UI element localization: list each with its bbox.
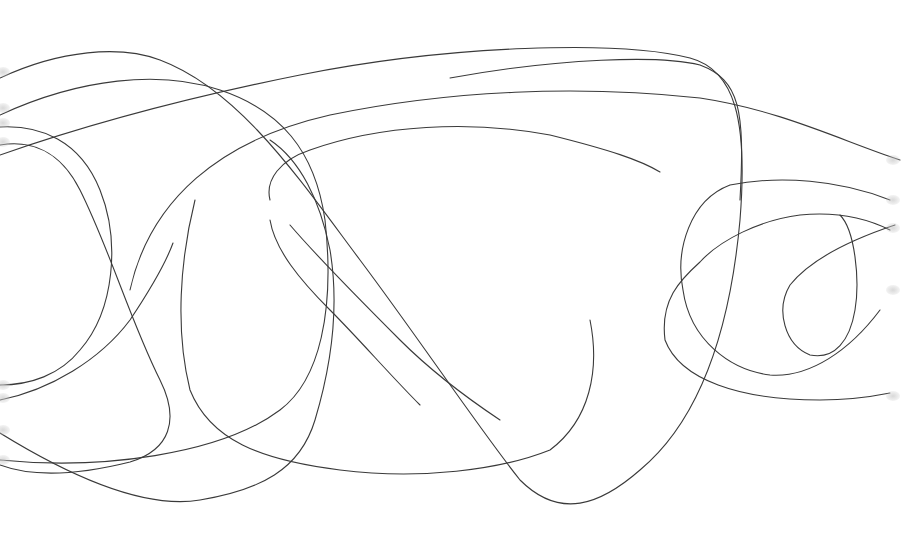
line-drawing xyxy=(0,0,902,536)
edge-smudge xyxy=(886,391,900,401)
curve-stroke xyxy=(181,200,594,474)
edge-smudge xyxy=(886,223,900,233)
edge-smudge xyxy=(886,285,900,295)
curve-stroke xyxy=(270,220,420,405)
curve-stroke xyxy=(783,215,895,356)
curve-stroke xyxy=(290,225,500,420)
curve-stroke xyxy=(450,59,742,200)
curve-stroke xyxy=(0,48,742,504)
curve-stroke xyxy=(0,140,334,502)
curve-stroke xyxy=(0,127,112,385)
curve-stroke xyxy=(0,243,173,400)
edge-smudge xyxy=(886,195,900,205)
edge-smudge xyxy=(886,155,900,165)
curve-stroke xyxy=(130,91,900,290)
curve-stroke xyxy=(0,144,170,473)
curve-stroke xyxy=(0,79,328,463)
curve-stroke xyxy=(681,180,890,375)
curve-stroke xyxy=(269,127,660,200)
curve-stroke xyxy=(664,214,890,400)
